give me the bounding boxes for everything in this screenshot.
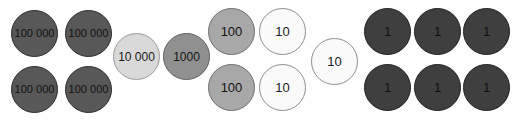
counter-hundred-thousand: 100 000 (11, 10, 58, 57)
counter-ten: 10 (259, 64, 306, 111)
counter-label: 100 000 (15, 84, 55, 95)
counter-label: 100 (221, 81, 243, 94)
counter-label: 1000 (173, 51, 200, 63)
counter-label: 1 (384, 81, 391, 94)
counter-label: 1 (434, 25, 441, 38)
counter-hundred: 100 (208, 8, 255, 55)
counter-ten-thousand: 10 000 (113, 33, 160, 80)
counter-ten: 10 (311, 38, 358, 85)
counter-one: 1 (364, 64, 411, 111)
counter-label: 1 (384, 25, 391, 38)
counter-one: 1 (463, 64, 510, 111)
counter-label: 10 (275, 25, 289, 38)
counter-label: 10 (327, 55, 341, 68)
counter-hundred-thousand: 100 000 (65, 66, 112, 113)
counter-label: 100 (221, 25, 243, 38)
counter-one: 1 (414, 64, 461, 111)
counter-label: 1 (434, 81, 441, 94)
counter-thousand: 1000 (163, 33, 210, 80)
counter-one: 1 (414, 8, 461, 55)
counter-hundred-thousand: 100 000 (11, 66, 58, 113)
counter-label: 100 000 (69, 28, 109, 39)
counter-label: 100 000 (69, 84, 109, 95)
counter-one: 1 (364, 8, 411, 55)
counter-label: 1 (483, 81, 490, 94)
counter-hundred-thousand: 100 000 (65, 10, 112, 57)
counter-ten: 10 (259, 8, 306, 55)
counter-hundred: 100 (208, 64, 255, 111)
counter-label: 10 (275, 81, 289, 94)
counter-label: 1 (483, 25, 490, 38)
counter-label: 100 000 (15, 28, 55, 39)
counter-label: 10 000 (118, 51, 155, 63)
counter-one: 1 (463, 8, 510, 55)
place-value-counter-diagram: 100 000100 000100 000100 00010 000100010… (0, 0, 518, 122)
